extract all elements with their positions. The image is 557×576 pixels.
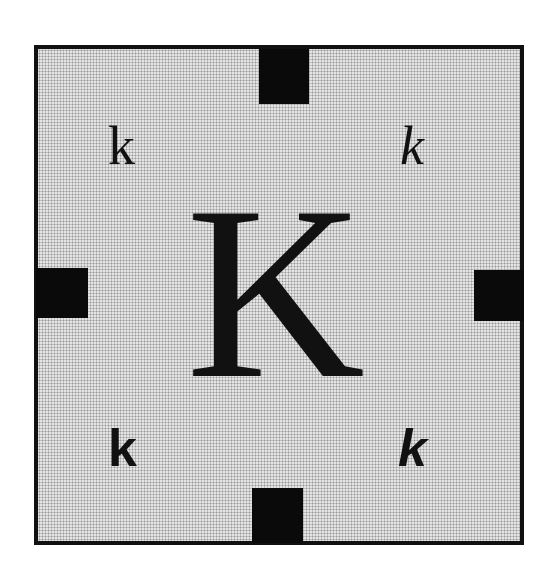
left-edge-tab (36, 268, 88, 318)
corner-letter-top-right: k (400, 119, 424, 173)
stippled-square-frame: k k k k K (34, 45, 524, 545)
corner-letter-bottom-left: k (108, 422, 137, 474)
top-edge-tab (259, 49, 309, 104)
corner-letter-bottom-right: k (398, 422, 427, 474)
right-edge-tab (474, 270, 524, 321)
bottom-edge-tab (252, 488, 303, 543)
corner-letter-top-left: k (108, 119, 135, 173)
center-capital-letter: K (186, 169, 365, 417)
